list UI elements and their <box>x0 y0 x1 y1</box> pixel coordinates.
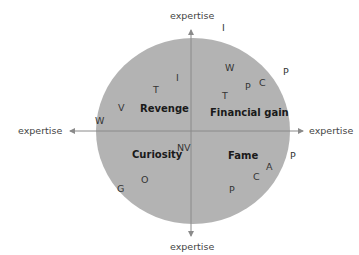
marker-letter: C <box>253 172 260 182</box>
quadrant-label-financial-gain: Financial gain <box>210 108 289 118</box>
marker-letter: W <box>225 63 234 73</box>
marker-letter: T <box>153 85 159 95</box>
marker-letter: NV <box>177 143 191 153</box>
marker-letter: W <box>95 116 104 126</box>
marker-letter: P <box>229 185 235 195</box>
marker-letter: A <box>266 162 273 172</box>
marker-letter: P <box>245 82 251 92</box>
marker-letter: G <box>117 184 124 194</box>
quadrant-label-curiosity: Curiosity <box>132 150 182 160</box>
marker-letter: C <box>259 78 266 88</box>
axis-label-right: expertise <box>309 126 353 136</box>
quadrant-label-revenge: Revenge <box>140 104 189 114</box>
marker-letter: O <box>141 175 148 185</box>
marker-letter: I <box>176 73 179 83</box>
axis-label-left: expertise <box>18 126 62 136</box>
quadrant-label-fame: Fame <box>228 151 258 161</box>
axis-label-bottom: expertise <box>170 242 214 252</box>
axis-label-top: expertise <box>170 11 214 21</box>
marker-letter: V <box>118 103 125 113</box>
marker-letter: P <box>283 67 289 77</box>
marker-letter: T <box>222 91 228 101</box>
marker-letter: P <box>290 151 296 161</box>
marker-letter: I <box>222 23 225 33</box>
